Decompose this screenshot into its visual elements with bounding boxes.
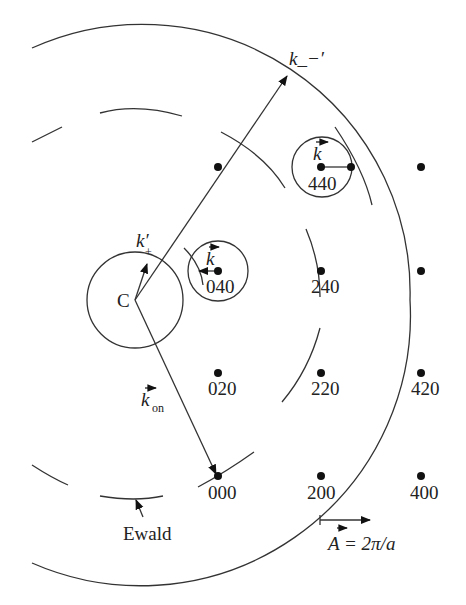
point-240 <box>317 267 325 275</box>
vector-k-plus-prime <box>135 264 147 300</box>
svg-text:k: k <box>206 248 215 269</box>
point-660 <box>417 163 425 171</box>
svg-text:+: + <box>145 245 152 259</box>
point-000 <box>214 472 222 480</box>
svg-text:A = 2π/a: A = 2π/a <box>326 533 395 554</box>
label-220: 220 <box>311 378 340 399</box>
point-060 <box>214 163 222 171</box>
point-040 <box>214 267 222 275</box>
lattice-labels: 000 200 400 020 220 420 040 240 440 <box>206 173 440 503</box>
label-k-040: k <box>206 247 219 269</box>
label-240: 240 <box>311 276 340 297</box>
point-220 <box>317 369 325 377</box>
center-label: C <box>117 290 130 311</box>
label-400: 400 <box>410 482 439 503</box>
svg-text:on: on <box>152 401 164 415</box>
point-460 <box>317 163 325 171</box>
point-420 <box>417 369 425 377</box>
label-k-440: k <box>313 142 328 164</box>
label-020: 020 <box>208 378 237 399</box>
label-k-plus-prime: k′ + <box>136 230 152 259</box>
label-k-minus-prime: k_−′ <box>289 48 325 69</box>
svg-text:k: k <box>313 143 322 164</box>
label-000: 000 <box>208 482 237 503</box>
point-440-right <box>417 267 425 275</box>
label-200: 200 <box>307 482 336 503</box>
ewald-diagram: 000 200 400 020 220 420 040 240 440 C k_… <box>0 0 466 605</box>
scale-bar <box>320 515 370 525</box>
ewald-label: Ewald <box>123 523 172 544</box>
label-k-on: k on <box>141 388 164 415</box>
lattice-points <box>214 163 425 480</box>
point-400 <box>417 472 425 480</box>
label-420: 420 <box>411 378 440 399</box>
label-040: 040 <box>206 276 235 297</box>
ewald-pointer-arrow <box>136 500 143 517</box>
label-440: 440 <box>308 173 337 194</box>
scale-label: A = 2π/a <box>326 528 395 554</box>
point-200 <box>317 472 325 480</box>
point-460-edge <box>347 163 355 171</box>
point-020 <box>214 369 222 377</box>
svg-text:k: k <box>141 389 150 410</box>
